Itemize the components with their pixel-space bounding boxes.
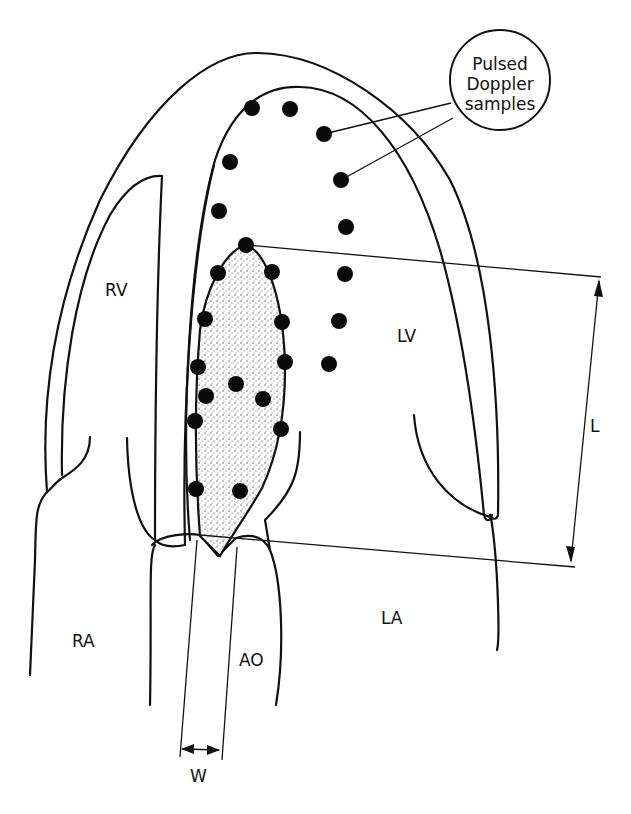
w-arrowhead-right-icon: [207, 745, 220, 755]
ra-wall-right: [150, 545, 155, 705]
label-la: LA: [381, 608, 403, 628]
label-ao: AO: [239, 650, 264, 670]
ra-wall-left: [30, 492, 47, 675]
callout-line-2: Doppler: [466, 74, 533, 94]
label-lv: LV: [397, 326, 417, 346]
callout-line-1: Pulsed: [472, 54, 528, 74]
la-wall: [491, 518, 498, 650]
label-width: W: [190, 766, 207, 786]
arrowhead-down-icon: [566, 546, 575, 563]
callout-leader-2: [341, 118, 453, 180]
w-left-line: [180, 540, 197, 757]
label-ra: RA: [72, 631, 95, 651]
arrowhead-up-icon: [594, 279, 603, 297]
tricuspid-leaflet-septal: [127, 438, 155, 540]
callout-line-3: samples: [465, 94, 536, 114]
w-right-line: [222, 547, 237, 760]
echocardiogram-diagram: RV LV RA LA AO L W Pulsed Doppler sample…: [0, 0, 631, 814]
w-arrowhead-left-icon: [181, 744, 194, 754]
aortic-root: [152, 534, 281, 705]
tricuspid-leaflet-lateral: [47, 437, 90, 492]
l-top-reference-line: [246, 245, 601, 277]
label-rv: RV: [105, 280, 128, 300]
label-length: L: [590, 416, 600, 436]
rv-cavity-wall: [62, 176, 162, 540]
l-bottom-reference-line: [200, 535, 575, 567]
